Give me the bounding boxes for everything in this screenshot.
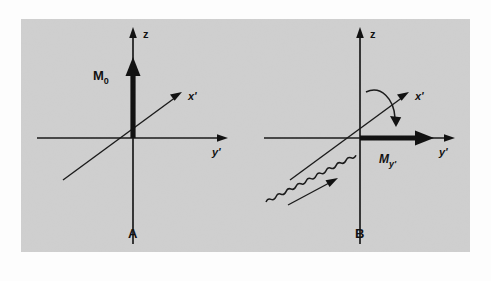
figure-canvas: z y' x' M0 A <box>0 0 491 281</box>
paper-grain-overlay <box>21 19 470 252</box>
figure-root: z y' x' M0 A <box>0 0 491 281</box>
